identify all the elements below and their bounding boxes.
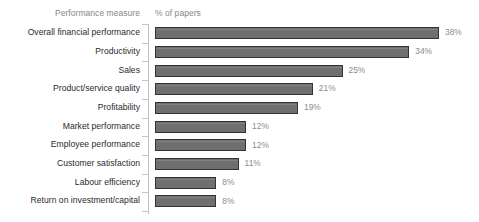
category-label: Product/service quality (0, 83, 140, 93)
bar (155, 121, 246, 133)
bar (155, 195, 216, 207)
axis-tick (142, 99, 149, 100)
axis-tick (142, 61, 149, 62)
category-label: Employee performance (0, 139, 140, 149)
bar-value-label: 12% (252, 121, 269, 131)
bar-row: Customer satisfaction11% (0, 155, 479, 174)
axis-tick (142, 155, 149, 156)
bar-value-label: 12% (252, 140, 269, 150)
bar-highlight (156, 85, 312, 86)
category-label: Customer satisfaction (0, 158, 140, 168)
bar-value-label: 8% (222, 196, 234, 206)
bar-highlight (156, 141, 245, 142)
category-label: Market performance (0, 121, 140, 131)
bar (155, 83, 313, 95)
bar (155, 139, 246, 151)
bar-highlight (156, 123, 245, 124)
bar (155, 102, 298, 114)
bar-row: Market performance12% (0, 118, 479, 137)
axis-tick (142, 43, 149, 44)
category-label: Profitability (0, 102, 140, 112)
axis-tick (142, 174, 149, 175)
bar-value-label: 25% (349, 65, 366, 75)
bar-highlight (156, 29, 438, 30)
category-column-header: Performance measure (0, 8, 140, 18)
chart-header: Performance measure % of papers (0, 8, 479, 22)
axis-tick (142, 118, 149, 119)
bar (155, 177, 216, 189)
axis-tick (142, 192, 149, 193)
axis-tick (142, 24, 149, 25)
category-label: Return on investment/capital (0, 195, 140, 205)
axis-tick (142, 136, 149, 137)
bar-value-label: 21% (319, 83, 336, 93)
bar-value-label: 38% (445, 27, 462, 37)
category-label: Labour efficiency (0, 177, 140, 187)
bar-value-label: 19% (304, 102, 321, 112)
axis-tick (142, 80, 149, 81)
category-label: Productivity (0, 46, 140, 56)
bar-highlight (156, 197, 215, 198)
bar-row: Employee performance12% (0, 136, 479, 155)
bar-row: Product/service quality21% (0, 80, 479, 99)
bar-highlight (156, 48, 408, 49)
bar (155, 27, 439, 39)
bar (155, 46, 409, 58)
bar (155, 158, 239, 170)
bar-value-label: 34% (415, 46, 432, 56)
value-column-header: % of papers (155, 8, 201, 18)
bar-highlight (156, 160, 238, 161)
bar-highlight (156, 104, 297, 105)
bar (155, 65, 343, 77)
bar-row: Sales25% (0, 61, 479, 80)
bar-highlight (156, 179, 215, 180)
axis-tick (142, 211, 149, 212)
category-label: Overall financial performance (0, 27, 140, 37)
bar-value-label: 11% (245, 158, 261, 168)
bar-row: Overall financial performance38% (0, 24, 479, 43)
plot-area: Overall financial performance38%Producti… (0, 24, 479, 216)
bar-row: Labour efficiency8% (0, 174, 479, 193)
bar-chart: Performance measure % of papers Overall … (0, 0, 479, 222)
category-label: Sales (0, 65, 140, 75)
bar-highlight (156, 67, 342, 68)
bar-row: Profitability19% (0, 99, 479, 118)
bar-row: Return on investment/capital8% (0, 192, 479, 211)
bar-row: Productivity34% (0, 43, 479, 62)
bar-value-label: 8% (222, 177, 234, 187)
